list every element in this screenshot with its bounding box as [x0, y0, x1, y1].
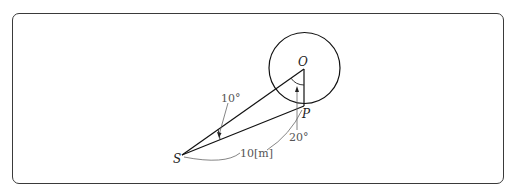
annotation-distance: 10[m] — [240, 147, 273, 160]
arrowhead-20deg — [295, 86, 299, 92]
leader-10deg — [219, 103, 228, 135]
annotation-angle-S: 10° — [221, 92, 241, 105]
label-P: P — [301, 107, 311, 121]
angle-arc-O — [291, 78, 304, 85]
annotation-angle-O: 20° — [289, 131, 309, 144]
label-O: O — [298, 55, 308, 69]
diagram-canvas: O P S 10° 20° 10[m] — [0, 0, 514, 190]
label-S: S — [173, 152, 181, 166]
segment-SO — [182, 69, 304, 155]
arrowhead-10deg — [217, 132, 222, 138]
distance-arc — [184, 153, 240, 160]
